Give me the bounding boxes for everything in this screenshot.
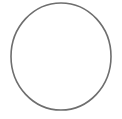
- circle-outline-svg: [0, 0, 122, 119]
- drawing-canvas: circle: [0, 0, 122, 119]
- canvas-background: [0, 0, 122, 119]
